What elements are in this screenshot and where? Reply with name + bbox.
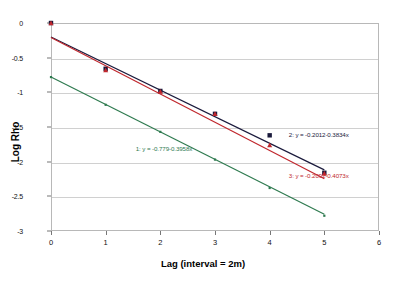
y-tick-label: -2 <box>0 158 23 165</box>
y-tick-label: -1 <box>0 89 23 96</box>
y-tick-mark <box>47 92 51 93</box>
x-tick-label: 2 <box>150 238 170 247</box>
x-tick-label: 5 <box>314 238 334 247</box>
y-tick-label: -3 <box>0 228 23 235</box>
x-tick-mark <box>51 231 52 235</box>
equation-annotation: 1: y = -0.779-0.3958x <box>136 145 193 152</box>
gridline <box>52 59 378 60</box>
y-tick-mark <box>47 57 51 58</box>
y-tick-mark <box>47 196 51 197</box>
x-tick-mark <box>270 231 271 235</box>
equation-annotation: 2: y = -0.2012-0.3834x <box>289 131 349 138</box>
x-axis-title: Lag (interval = 2m) <box>0 258 406 269</box>
y-tick-label: 0 <box>0 20 23 27</box>
gridline <box>52 128 378 129</box>
x-tick-mark <box>324 231 325 235</box>
y-tick-label: -0.5 <box>0 54 23 61</box>
y-tick-mark <box>47 127 51 128</box>
equation-annotation: 3: y = -0.2092-0.4073x <box>289 172 349 179</box>
y-tick-mark <box>47 23 51 24</box>
x-tick-label: 1 <box>96 238 116 247</box>
gridline <box>52 197 378 198</box>
y-tick-mark <box>47 161 51 162</box>
gridline <box>52 93 378 94</box>
y-tick-label: -1.5 <box>0 124 23 131</box>
x-tick-mark <box>215 231 216 235</box>
x-tick-mark <box>379 231 380 235</box>
gridline <box>52 163 378 164</box>
y-axis-title: Log Rho <box>10 97 21 187</box>
x-tick-label: 6 <box>369 238 389 247</box>
x-tick-mark <box>106 231 107 235</box>
x-tick-label: 0 <box>41 238 61 247</box>
plot-area <box>51 23 379 231</box>
x-tick-mark <box>160 231 161 235</box>
x-tick-label: 3 <box>205 238 225 247</box>
y-tick-label: -2.5 <box>0 193 23 200</box>
x-tick-label: 4 <box>260 238 280 247</box>
chart-container: Log Rho Lag (interval = 2m) 0-0.5-1-1.5-… <box>0 0 406 283</box>
